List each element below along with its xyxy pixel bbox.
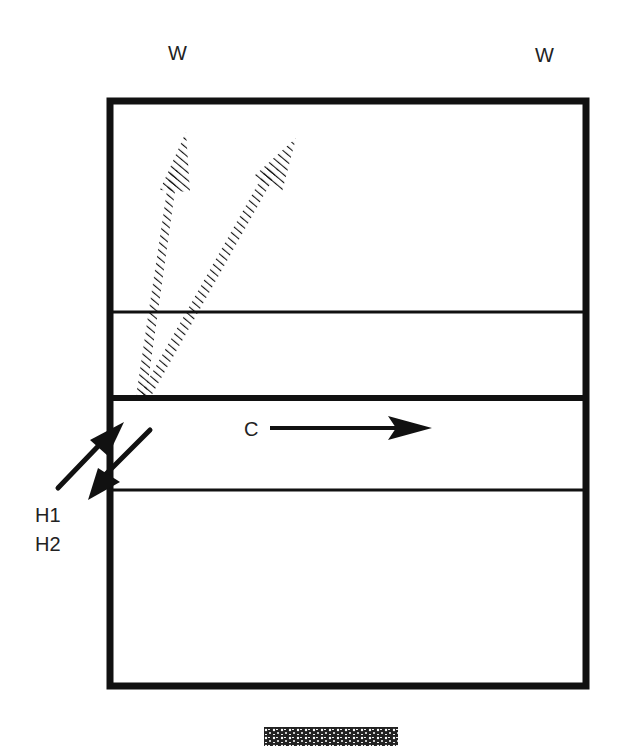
diagram-canvas: W W C H1 H2 <box>0 0 623 746</box>
label-c: C <box>244 418 258 440</box>
label-w-right: W <box>535 44 554 66</box>
label-w-left: W <box>168 42 187 64</box>
label-h1: H1 <box>35 504 61 526</box>
arrow-c <box>270 416 432 440</box>
label-h2: H2 <box>35 533 61 555</box>
arrow-h1 <box>58 422 124 488</box>
texture-block <box>264 727 398 746</box>
